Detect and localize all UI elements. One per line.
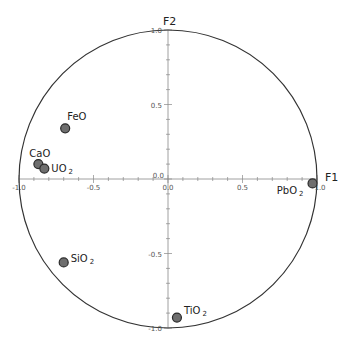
y-tick-label: -1.0 [148, 325, 162, 333]
data-points: FeOCaOUO2SiO2TiO2PbO2 [29, 111, 317, 322]
data-point: FeO [61, 111, 87, 133]
point-marker [61, 124, 70, 133]
y-tick-label: 0.0 [153, 172, 164, 180]
x-axis-label: F1 [325, 171, 338, 184]
x-tick-label: 0.0 [162, 184, 173, 192]
x-tick-label: 0.5 [237, 184, 248, 192]
point-marker [59, 258, 68, 267]
point-label: SiO2 [71, 253, 94, 266]
x-tick-label: -0.5 [87, 184, 101, 192]
data-point: UO2 [40, 163, 73, 176]
y-tick-label: 0.5 [151, 102, 162, 110]
point-label: UO2 [51, 163, 73, 176]
point-label: CaO [29, 148, 50, 159]
point-label: PbO2 [277, 185, 304, 198]
data-point: PbO2 [277, 179, 317, 199]
point-label: TiO2 [183, 305, 207, 318]
data-point: SiO2 [59, 253, 94, 267]
y-tick-label: -0.5 [148, 251, 162, 259]
point-label: FeO [67, 111, 86, 122]
point-marker [172, 313, 181, 322]
y-tick-label: 1.0 [151, 27, 162, 35]
point-marker [308, 179, 317, 188]
y-axis-label: F2 [163, 15, 176, 28]
correlation-circle-chart: -1.0-0.50.00.51.0-1.0-0.50.00.51.0 F1 F2… [0, 0, 350, 341]
data-point: TiO2 [172, 305, 206, 323]
axes [19, 30, 317, 328]
point-marker [40, 164, 49, 173]
tick-labels: -1.0-0.50.00.51.0-1.0-0.50.00.51.0 [12, 27, 325, 333]
x-tick-label: -1.0 [12, 184, 26, 192]
